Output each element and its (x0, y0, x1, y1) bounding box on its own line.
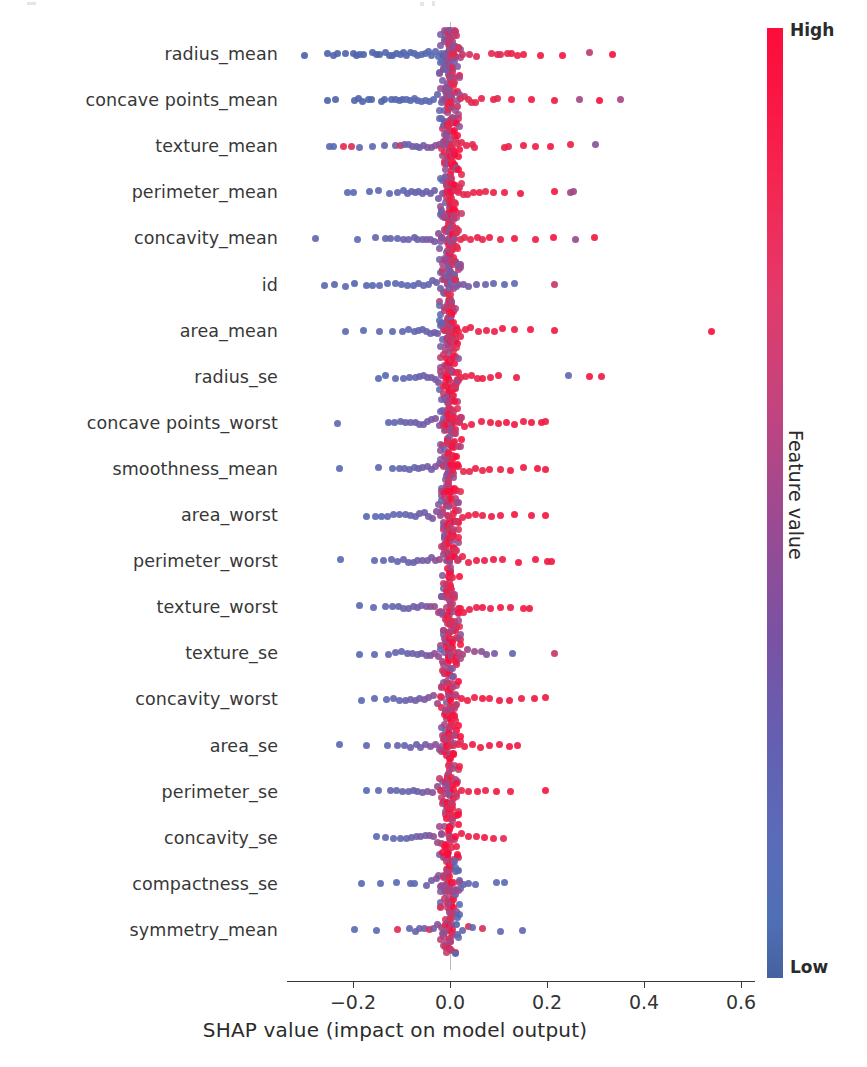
data-point (465, 833, 472, 840)
data-point (496, 697, 503, 704)
data-point (479, 512, 486, 519)
colorbar-low-label: Low (790, 957, 828, 977)
data-point (370, 604, 377, 611)
data-point (526, 605, 533, 612)
x-tick-label: 0.0 (435, 991, 465, 1013)
data-point (360, 51, 367, 58)
data-point (454, 461, 461, 468)
data-point (493, 879, 500, 886)
data-point (449, 765, 456, 772)
data-point (511, 326, 518, 333)
data-point (473, 53, 480, 60)
data-point (513, 374, 520, 381)
data-point (330, 143, 337, 150)
data-point (499, 325, 506, 332)
data-point (457, 333, 464, 340)
data-point (479, 375, 486, 382)
data-point (531, 695, 538, 702)
data-point (360, 327, 367, 334)
beeswarm-row (287, 584, 742, 630)
data-point (520, 142, 527, 149)
data-point (478, 418, 485, 425)
data-point (454, 103, 461, 110)
data-point (454, 914, 461, 921)
data-point (358, 880, 365, 887)
y-tick-label: radius_se (0, 367, 278, 387)
data-point (332, 96, 339, 103)
y-tick-label: concavity_se (0, 828, 278, 848)
data-point (456, 74, 463, 81)
data-point (373, 927, 380, 934)
data-point (511, 421, 518, 428)
scan-artifact (420, 2, 424, 6)
data-point (455, 355, 462, 362)
data-point (511, 235, 518, 242)
data-point (453, 843, 460, 850)
data-point (455, 617, 462, 624)
data-point (617, 96, 624, 103)
data-point (495, 420, 502, 427)
data-point (437, 693, 444, 700)
data-point (507, 604, 514, 611)
data-point (455, 526, 462, 533)
data-point (466, 51, 473, 58)
data-point (467, 324, 474, 331)
data-point (453, 547, 460, 554)
data-point (458, 414, 465, 421)
data-point (501, 879, 508, 886)
data-point (371, 695, 378, 702)
data-point (368, 96, 375, 103)
data-point (482, 188, 489, 195)
data-point (475, 328, 482, 335)
x-tick-label: −0.2 (330, 991, 376, 1013)
data-point (350, 189, 357, 196)
data-point (464, 697, 471, 704)
data-point (380, 557, 387, 564)
y-tick-label: symmetry_mean (0, 920, 278, 940)
data-point (429, 515, 436, 522)
x-axis-line (287, 981, 755, 982)
data-point (384, 280, 391, 287)
data-point (508, 96, 515, 103)
data-point (456, 573, 463, 580)
data-point (382, 372, 389, 379)
data-point (375, 464, 382, 471)
data-point (312, 235, 319, 242)
data-point (483, 327, 490, 334)
data-point (520, 464, 527, 471)
shap-summary-figure: radius_meanconcave points_meantexture_me… (0, 0, 867, 1067)
y-tick-label: area_mean (0, 321, 278, 341)
data-point (486, 234, 493, 241)
data-point (455, 227, 462, 234)
y-tick-label: smoothness_mean (0, 459, 278, 479)
data-point (392, 375, 399, 382)
data-point (369, 282, 376, 289)
data-point (465, 512, 472, 519)
data-point (507, 788, 514, 795)
data-point (565, 372, 572, 379)
beeswarm-row (287, 354, 742, 400)
data-point (501, 189, 508, 196)
y-tick-label: concavity_worst (0, 689, 278, 709)
data-point (458, 180, 465, 187)
data-point (488, 513, 495, 520)
data-point (528, 419, 535, 426)
data-point (532, 143, 539, 150)
x-tick-label: 0.4 (629, 991, 659, 1013)
data-point (371, 557, 378, 564)
data-point (572, 236, 579, 243)
x-tick-mark (741, 981, 742, 988)
data-point (551, 281, 558, 288)
data-point (449, 712, 456, 719)
colorbar-title: Feature value (785, 430, 807, 630)
y-tick-label: perimeter_worst (0, 551, 278, 571)
data-point (450, 751, 457, 758)
data-point (474, 788, 481, 795)
data-point (506, 697, 513, 704)
y-tick-label: area_worst (0, 505, 278, 525)
data-point (453, 243, 460, 250)
y-tick-label: concave points_mean (0, 90, 278, 110)
data-point (481, 834, 488, 841)
data-point (490, 280, 497, 287)
scan-artifact (432, 1, 435, 6)
